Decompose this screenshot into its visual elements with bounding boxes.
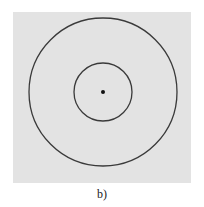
concentric-circles-diagram	[0, 0, 204, 207]
center-dot	[101, 90, 105, 94]
figure-caption: b)	[0, 187, 204, 202]
